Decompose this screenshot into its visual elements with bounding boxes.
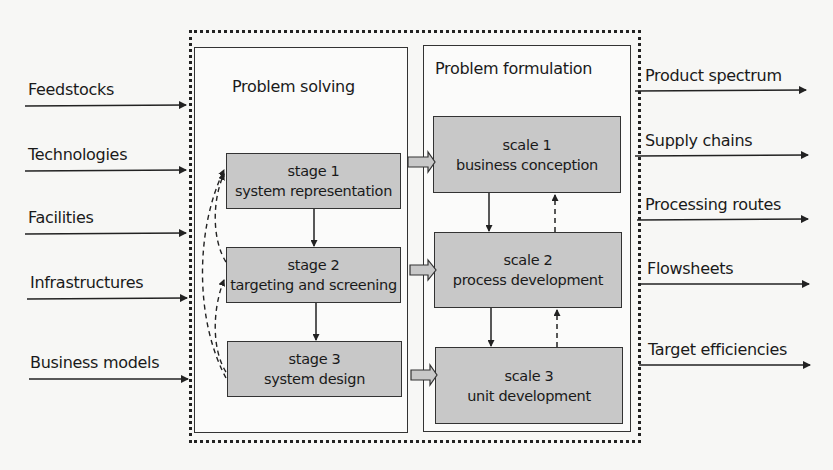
feedback-stage3-to-stage1-icon xyxy=(202,170,226,378)
arrow-feedstocks-icon xyxy=(25,105,186,106)
input-arrows xyxy=(25,105,188,379)
feedback-stage2-to-stage1-icon xyxy=(215,174,226,262)
block-arrow-stage1-to-scale1-icon xyxy=(408,152,435,172)
block-arrow-stage2-to-scale2-icon xyxy=(410,260,436,280)
connector-layer xyxy=(0,0,833,470)
block-arrow-stage3-to-scale3-icon xyxy=(411,365,437,385)
arrow-technologies-icon xyxy=(25,170,186,171)
arrow-facilities-icon xyxy=(25,233,186,234)
arrow-processing-routes-icon xyxy=(637,219,808,220)
arrow-supply-chains-icon xyxy=(635,155,808,156)
arrow-infrastructures-icon xyxy=(27,298,187,299)
arrow-product-spectrum-icon xyxy=(635,90,806,91)
output-arrows xyxy=(635,90,810,365)
